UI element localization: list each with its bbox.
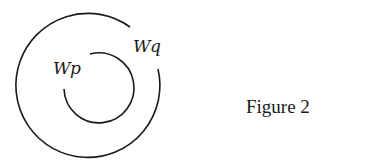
label-wp: Wp: [53, 60, 80, 77]
figure-caption: Figure 2: [246, 97, 310, 116]
outer-circle-arc: [16, 13, 160, 157]
label-wq: Wq: [133, 38, 160, 55]
circles-diagram: [0, 0, 377, 168]
